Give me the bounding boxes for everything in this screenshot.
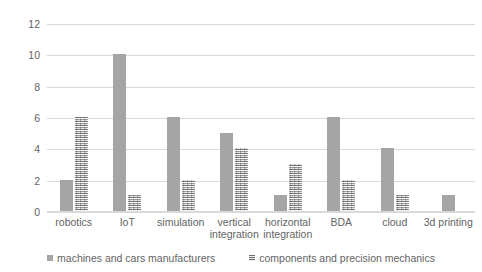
x-axis-label: 3d printing <box>422 216 476 228</box>
y-tick-label-4: 4 <box>12 144 40 154</box>
bar-series1 <box>442 195 455 211</box>
x-axis-baseline <box>47 211 475 212</box>
bar-group <box>261 23 315 211</box>
y-tick-label-0: 0 <box>12 207 40 217</box>
y-tick-label-12: 12 <box>12 19 40 29</box>
legend-item[interactable]: machines and cars manufacturers <box>47 252 215 264</box>
legend-item-label: components and precision mechanics <box>259 252 435 264</box>
bar-group <box>422 23 476 211</box>
bar-series2 <box>342 180 355 211</box>
bar-series1 <box>327 117 340 211</box>
bar-series2 <box>182 180 195 211</box>
bar-series2 <box>289 164 302 211</box>
legend-item[interactable]: components and precision mechanics <box>249 252 435 264</box>
x-axis-label: robotics <box>47 216 101 228</box>
bar-series2 <box>128 195 141 211</box>
legend-swatch-textured-icon <box>249 255 255 261</box>
y-tick-label-10: 10 <box>12 50 40 60</box>
bar-series2 <box>235 148 248 211</box>
y-tick-label-6: 6 <box>12 113 40 123</box>
x-axis-labels: roboticsIoTsimulationvertical integratio… <box>47 214 475 248</box>
bar-group <box>154 23 208 211</box>
bar-series1 <box>167 117 180 211</box>
y-tick-label-2: 2 <box>12 176 40 186</box>
bar-series1 <box>274 195 287 211</box>
bar-group <box>208 23 262 211</box>
x-axis-label: BDA <box>315 216 369 228</box>
y-tick-label-8: 8 <box>12 82 40 92</box>
plot-area <box>47 24 475 212</box>
bar-series2 <box>75 117 88 211</box>
bar-series1 <box>113 54 126 211</box>
bar-group <box>315 23 369 211</box>
x-axis-label: horizontal integration <box>261 216 315 240</box>
bar-series2 <box>396 195 409 211</box>
bar-group <box>47 23 101 211</box>
bar-series1 <box>220 133 233 211</box>
x-axis-label: simulation <box>154 216 208 228</box>
x-axis-label: cloud <box>368 216 422 228</box>
bar-series1 <box>60 180 73 211</box>
legend-swatch-solid-icon <box>47 255 53 261</box>
chart-legend: machines and cars manufacturerscomponent… <box>0 252 482 264</box>
bar-series1 <box>381 148 394 211</box>
bar-group <box>368 23 422 211</box>
bar-group <box>101 23 155 211</box>
x-axis-label: IoT <box>101 216 155 228</box>
legend-item-label: machines and cars manufacturers <box>57 252 215 264</box>
bar-chart: 024681012 roboticsIoTsimulationvertical … <box>0 0 482 272</box>
x-axis-label: vertical integration <box>208 216 262 240</box>
gridline-0 <box>47 212 475 213</box>
